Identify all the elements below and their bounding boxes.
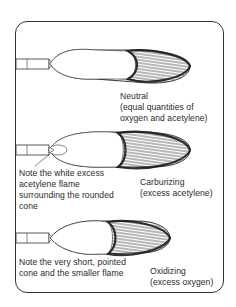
carburizing-note-line1: Note the white excess: [19, 168, 104, 179]
torch-tip-icon: [16, 233, 49, 243]
carburizing-label: Carburizing: [140, 177, 185, 188]
torch-tip-icon: [16, 145, 49, 155]
neutral-flame: [16, 49, 190, 83]
carburizing-description: (excess acetylene): [140, 188, 213, 199]
carburizing-flame: [16, 132, 190, 169]
oxidizing-flame: [16, 221, 170, 255]
note-pointer-arrow: [35, 154, 50, 166]
torch-tip-icon: [16, 59, 49, 69]
oxidizing-note-line2: cone and the smaller flame: [19, 268, 123, 279]
carburizing-note-line2: acetylene flame: [19, 179, 80, 190]
neutral-label: Neutral: [120, 91, 148, 102]
oxidizing-note-line1: Note the very short, pointed: [19, 257, 126, 268]
neutral-description: (equal quantities of: [120, 102, 194, 113]
carburizing-note-line4: cone: [19, 201, 38, 212]
carburizing-note-line3: surrounding the rounded: [19, 190, 114, 201]
neutral-description-line2: oxygen and acetylene): [120, 113, 208, 124]
oxidizing-label: Oxidizing: [150, 266, 186, 277]
oxidizing-description: (excess oxygen): [150, 277, 213, 288]
